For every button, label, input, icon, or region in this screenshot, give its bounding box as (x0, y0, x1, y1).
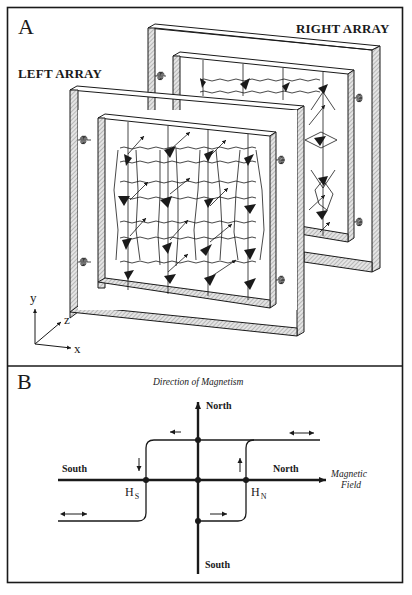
right-array-label: RIGHT ARRAY (296, 21, 390, 36)
panel-b: B Direction of Magnetism North South Sou… (17, 369, 368, 574)
z-axis-label: z (64, 312, 70, 327)
point-origin (195, 477, 201, 483)
horizontal-axis-title-line1: Magnetic (330, 469, 368, 479)
point-upper-remanence (195, 437, 201, 443)
panel-b-letter: B (17, 369, 32, 394)
panel-a: A RIGHT ARRAY LEFT ARRAY (18, 14, 390, 356)
horizontal-left-label: South (62, 463, 87, 474)
horizontal-right-label: North (273, 463, 299, 474)
h-north-label: HN (251, 485, 267, 501)
x-axis-arrow (35, 344, 71, 348)
z-axis-arrow (35, 322, 61, 344)
point-lower-remanence (195, 518, 201, 524)
vertical-bottom-label: South (205, 559, 230, 570)
vertical-top-label: North (206, 400, 232, 411)
panel-a-letter: A (18, 14, 34, 39)
left-array-label: LEFT ARRAY (18, 66, 102, 81)
vertical-axis-title: Direction of Magnetism (152, 377, 244, 387)
x-axis-label: x (74, 341, 81, 356)
point-h-south (143, 477, 149, 483)
figure-canvas: A RIGHT ARRAY LEFT ARRAY (0, 0, 412, 595)
horizontal-axis-title-line2: Field (340, 480, 361, 490)
h-south-label: HS (125, 485, 139, 501)
y-axis-label: y (30, 290, 37, 305)
point-h-north (243, 477, 249, 483)
